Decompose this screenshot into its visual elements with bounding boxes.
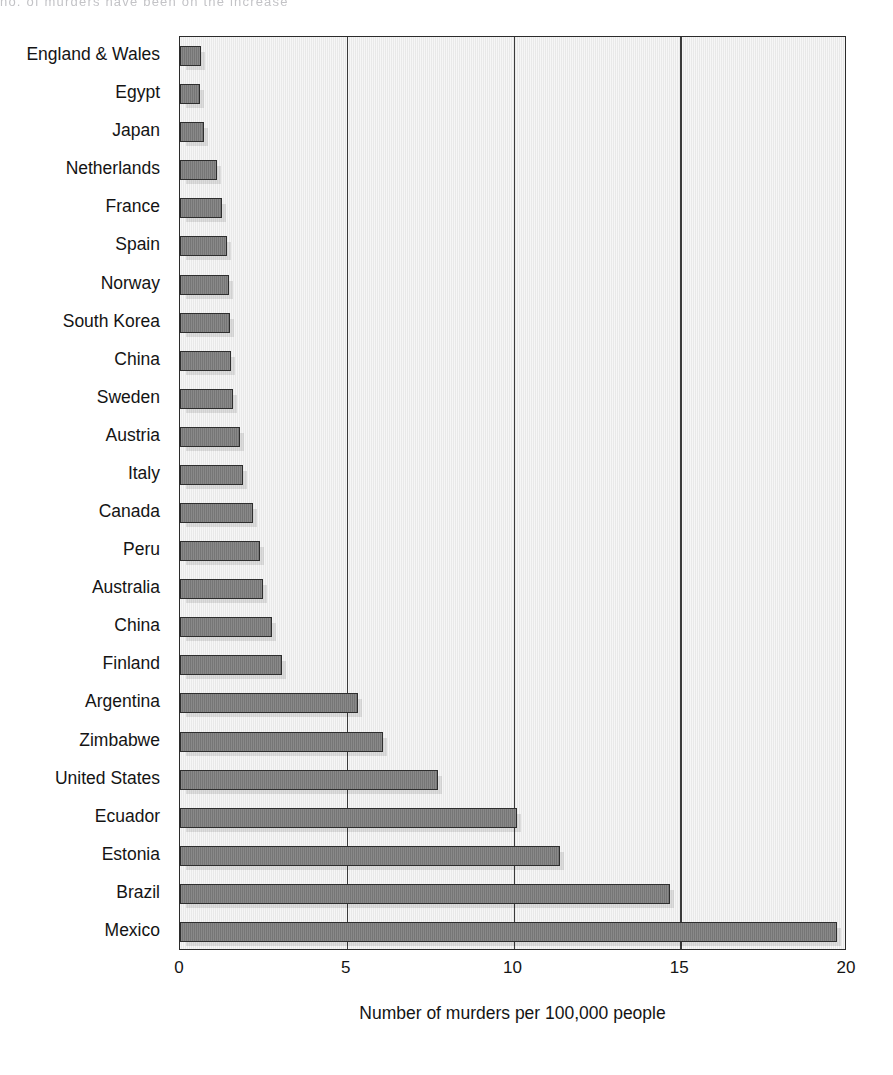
bar — [180, 732, 383, 752]
bar — [180, 122, 204, 142]
bar-row — [180, 875, 670, 913]
bar-row — [180, 608, 272, 646]
bar-row — [180, 418, 240, 456]
y-axis-label: France — [0, 199, 160, 217]
bar — [180, 313, 230, 333]
y-axis-label: Netherlands — [0, 161, 160, 179]
bar-row — [180, 227, 227, 265]
bar-row — [180, 304, 230, 342]
y-axis-label: England & Wales — [0, 46, 160, 64]
bar — [180, 236, 227, 256]
bar-row — [180, 266, 229, 304]
bar — [180, 275, 229, 295]
bar — [180, 655, 282, 675]
y-axis-label: Brazil — [0, 884, 160, 902]
y-axis-label: Austria — [0, 427, 160, 445]
y-axis-label: Sweden — [0, 389, 160, 407]
bar-row — [180, 684, 358, 722]
gridline-15 — [680, 37, 681, 949]
x-tick-label: 0 — [174, 958, 183, 978]
x-tick-label: 15 — [670, 958, 689, 978]
bar — [180, 541, 260, 561]
bar-row — [180, 342, 231, 380]
bar-row — [180, 494, 253, 532]
bar-row — [180, 189, 222, 227]
y-axis-label: China — [0, 351, 160, 369]
bar — [180, 579, 263, 599]
bar — [180, 846, 560, 866]
bar-row — [180, 37, 201, 75]
bar — [180, 160, 217, 180]
bar — [180, 808, 517, 828]
bar — [180, 884, 670, 904]
bar-row — [180, 913, 837, 950]
bar — [180, 198, 222, 218]
bar-row — [180, 570, 263, 608]
bar-chart: England & WalesEgyptJapanNetherlandsFran… — [0, 0, 893, 1075]
bar — [180, 770, 438, 790]
y-axis-label: South Korea — [0, 313, 160, 331]
x-axis-tick-labels: 05101520 — [179, 958, 846, 984]
y-axis-label: United States — [0, 770, 160, 788]
x-tick-label: 20 — [837, 958, 856, 978]
bar — [180, 465, 243, 485]
bar — [180, 351, 231, 371]
y-axis-label: Canada — [0, 503, 160, 521]
bar — [180, 427, 240, 447]
bar-row — [180, 799, 517, 837]
bar-row — [180, 75, 200, 113]
bar-row — [180, 646, 282, 684]
bar — [180, 922, 837, 942]
bar-row — [180, 837, 560, 875]
bar-row — [180, 151, 217, 189]
y-axis-label: Zimbabwe — [0, 732, 160, 750]
bar — [180, 503, 253, 523]
plot-area — [179, 36, 846, 950]
bar-row — [180, 456, 243, 494]
y-axis-category-labels: England & WalesEgyptJapanNetherlandsFran… — [0, 36, 170, 950]
y-axis-label: Finland — [0, 656, 160, 674]
bar — [180, 389, 233, 409]
bar-row — [180, 723, 383, 761]
y-axis-label: Japan — [0, 122, 160, 140]
y-axis-label: Estonia — [0, 846, 160, 864]
y-axis-label: Argentina — [0, 694, 160, 712]
y-axis-label: Australia — [0, 579, 160, 597]
bar — [180, 84, 200, 104]
y-axis-label: Mexico — [0, 922, 160, 940]
bar-row — [180, 380, 233, 418]
bar — [180, 46, 201, 66]
bar-row — [180, 761, 438, 799]
bar — [180, 617, 272, 637]
y-axis-label: Italy — [0, 465, 160, 483]
x-axis-title: Number of murders per 100,000 people — [179, 1003, 846, 1024]
bar-row — [180, 113, 204, 151]
y-axis-label: Spain — [0, 237, 160, 255]
y-axis-label: China — [0, 618, 160, 636]
y-axis-label: Norway — [0, 275, 160, 293]
x-tick-label: 10 — [503, 958, 522, 978]
y-axis-label: Peru — [0, 541, 160, 559]
y-axis-label: Ecuador — [0, 808, 160, 826]
bar — [180, 693, 358, 713]
x-tick-label: 5 — [341, 958, 350, 978]
bar-row — [180, 532, 260, 570]
y-axis-label: Egypt — [0, 84, 160, 102]
